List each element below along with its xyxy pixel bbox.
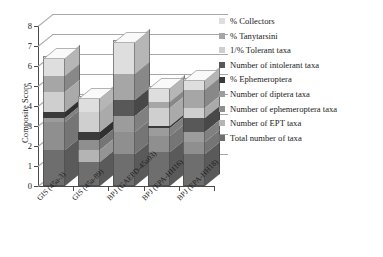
legend-swatch-icon <box>219 120 225 126</box>
legend-label: Total number of taxa <box>230 134 302 143</box>
legend-swatch-icon <box>219 135 225 141</box>
legend-item: Number of intolerant taxa <box>219 58 383 73</box>
legend-swatch-icon <box>219 33 225 39</box>
legend-item: 1/% Tolerant taxa <box>219 43 383 58</box>
legend-label: Number of ephemeroptera taxa <box>230 105 337 114</box>
legend-label: % Tanytarsini <box>230 32 278 41</box>
composite-score-chart: Composite Score 012345678 GIS (45a-3)GIS… <box>0 0 383 257</box>
legend-item: % Collectors <box>219 14 383 29</box>
legend-label: % Ephemeroptera <box>230 75 292 84</box>
legend-item: Number of diptera taxa <box>219 87 383 102</box>
legend-item: Number of EPT taxa <box>219 116 383 131</box>
legend-swatch-icon <box>219 106 225 112</box>
legend-item: Number of ephemeroptera taxa <box>219 102 383 117</box>
legend-label: Number of diptera taxa <box>230 90 310 99</box>
x-tick-label: GIS (45a-89) <box>70 167 105 202</box>
legend-label: Number of EPT taxa <box>230 119 301 128</box>
legend-item: % Tanytarsini <box>219 29 383 44</box>
legend-item: % Ephemeroptera <box>219 72 383 87</box>
legend-swatch-icon <box>219 47 225 53</box>
legend-swatch-icon <box>219 77 225 83</box>
legend-swatch-icon <box>219 91 225 97</box>
legend-label: Number of intolerant taxa <box>230 61 319 70</box>
legend-swatch-icon <box>219 62 225 68</box>
legend-swatch-icon <box>219 18 225 24</box>
legend-item: Total number of taxa <box>219 131 383 146</box>
legend-label: % Collectors <box>230 17 275 26</box>
legend-label: 1/% Tolerant taxa <box>230 46 291 55</box>
chart-legend: % Collectors% Tanytarsini1/% Tolerant ta… <box>219 14 383 145</box>
x-tick-label: GIS (45a-3) <box>35 170 68 203</box>
